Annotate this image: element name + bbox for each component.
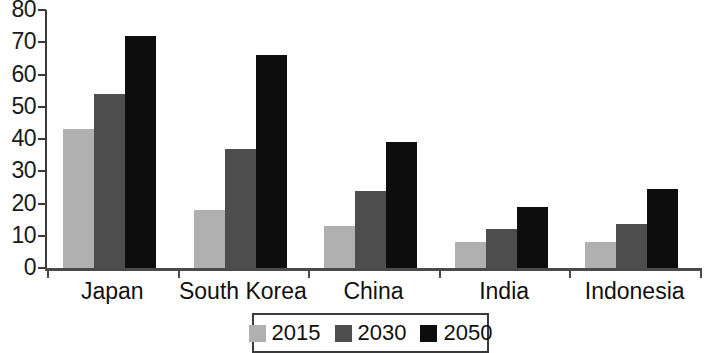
- legend-swatch-2030-icon: [335, 325, 352, 342]
- bar: [386, 142, 417, 268]
- bar: [616, 224, 647, 268]
- bar: [355, 191, 386, 268]
- bar: [125, 36, 156, 268]
- x-axis-tick: [439, 268, 441, 278]
- bar-group: [324, 10, 417, 268]
- y-axis-tick: [38, 41, 46, 43]
- y-axis-tick: [38, 203, 46, 205]
- y-axis-tick: [38, 106, 46, 108]
- y-axis-tick: [38, 9, 46, 11]
- x-axis-tick: [47, 268, 49, 278]
- x-axis-category-label: Indonesia: [569, 278, 700, 304]
- y-axis-tick-label: 50: [2, 95, 36, 118]
- y-axis-tick: [38, 138, 46, 140]
- plot-area: [47, 10, 700, 268]
- x-axis-category-label: South Korea: [178, 278, 309, 304]
- bar: [94, 94, 125, 268]
- x-axis-category-label: Japan: [47, 278, 178, 304]
- legend-swatch-2015-icon: [249, 325, 266, 342]
- bar-group: [455, 10, 548, 268]
- bar: [63, 129, 94, 268]
- bar-group: [194, 10, 287, 268]
- legend-item: 2050: [420, 322, 492, 344]
- bar: [256, 55, 287, 268]
- y-axis-tick-label: 70: [2, 30, 36, 53]
- bar: [647, 189, 678, 268]
- bar: [194, 210, 225, 268]
- x-axis-category-label: India: [439, 278, 570, 304]
- bar: [225, 149, 256, 268]
- y-axis-tick: [38, 74, 46, 76]
- bar-group: [585, 10, 678, 268]
- x-axis-tick: [308, 268, 310, 278]
- y-axis-tick-label: 10: [2, 224, 36, 247]
- x-axis-line: [45, 268, 700, 271]
- y-axis-tick-label: 40: [2, 127, 36, 150]
- legend-label-2050: 2050: [443, 322, 492, 344]
- bar: [486, 229, 517, 268]
- bar: [455, 242, 486, 268]
- x-axis-tick: [569, 268, 571, 278]
- y-axis-tick-label: 30: [2, 159, 36, 182]
- bar: [517, 207, 548, 268]
- y-axis-tick-label: 20: [2, 192, 36, 215]
- legend-label-2030: 2030: [358, 322, 407, 344]
- y-axis-tick-label: 0: [2, 256, 36, 279]
- x-axis-category-label: China: [308, 278, 439, 304]
- bar: [585, 242, 616, 268]
- y-axis-tick-label: 60: [2, 63, 36, 86]
- y-axis-tick-label: 80: [2, 0, 36, 21]
- y-axis-tick: [38, 170, 46, 172]
- y-axis-tick: [38, 235, 46, 237]
- bar: [324, 226, 355, 268]
- legend: 2015 2030 2050: [252, 313, 489, 353]
- legend-item: 2015: [249, 322, 321, 344]
- legend-item: 2030: [335, 322, 407, 344]
- legend-swatch-2050-icon: [420, 325, 437, 342]
- x-axis-tick: [178, 268, 180, 278]
- bar-group: [63, 10, 156, 268]
- legend-label-2015: 2015: [272, 322, 321, 344]
- x-axis-tick: [700, 268, 702, 278]
